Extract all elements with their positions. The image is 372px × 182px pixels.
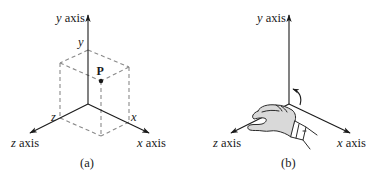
x-axis-label: x axis: [136, 136, 166, 150]
y-axis-label: y axis: [54, 11, 85, 25]
point-p-marker: [99, 79, 103, 83]
dashed-box: [60, 50, 129, 136]
z-axis-label: z axis: [212, 136, 241, 150]
point-p-label: P: [97, 64, 104, 78]
z-axis-label: z axis: [10, 136, 39, 150]
panel-a: P y z x y axis z axis x axis (a): [10, 11, 166, 170]
coordinate-system-figure: P y z x y axis z axis x axis (a): [0, 0, 372, 182]
z-axis-line: [30, 104, 88, 133]
y-axis-label: y axis: [255, 11, 286, 25]
x-axis-line: [88, 104, 149, 133]
z-tick-label: z: [50, 110, 56, 124]
y-tick-label: y: [76, 35, 84, 49]
x-tick-label: x: [130, 110, 137, 124]
rotation-arrow-icon: [293, 89, 301, 105]
caption-b: (b): [281, 156, 296, 170]
caption-a: (a): [80, 156, 94, 170]
right-hand-icon: [248, 105, 317, 149]
panel-b: y axis z axis x axis (b): [212, 11, 366, 170]
x-axis-label: x axis: [336, 136, 366, 150]
